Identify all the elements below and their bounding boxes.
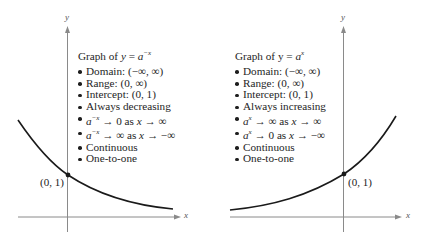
right-point-label: (0, 1) (348, 176, 372, 188)
right-y-axis-label: y (341, 12, 345, 22)
left-graph-title: Graph of y = a−x (78, 48, 175, 62)
left-limit-neg-item: a−x → ∞ as x → −∞ (78, 127, 175, 141)
left-x-axis-label: x (184, 210, 188, 220)
left-properties-box: Graph of y = a−x Domain: (−∞, ∞) Range: … (78, 48, 175, 165)
right-x-axis-arrow-icon (395, 215, 402, 220)
left-point-label: (0, 1) (40, 176, 64, 188)
right-graph-title: Graph of y = ax (235, 48, 326, 62)
left-domain-item: Domain: (−∞, ∞) (78, 66, 175, 78)
left-one-to-one-item: One-to-one (78, 153, 175, 165)
left-properties-list: Domain: (−∞, ∞) Range: (0, ∞) Intercept:… (78, 66, 175, 165)
right-domain-item: Domain: (−∞, ∞) (235, 66, 326, 78)
right-properties-list: Domain: (−∞, ∞) Range: (0, ∞) Intercept:… (235, 66, 326, 165)
right-one-to-one-item: One-to-one (235, 153, 326, 165)
right-x-axis-label: x (406, 210, 410, 220)
right-limit-pos-item: ax → ∞ as x → ∞ (235, 113, 326, 127)
left-y-axis-label: y (65, 12, 69, 22)
left-intercept-point (66, 173, 71, 178)
right-properties-box: Graph of y = ax Domain: (−∞, ∞) Range: (… (235, 48, 326, 165)
right-y-axis-arrow-icon (341, 26, 346, 33)
right-limit-neg-item: ax → 0 as x → −∞ (235, 127, 326, 141)
left-monotone-item: Always decreasing (78, 101, 175, 113)
plots-canvas (0, 0, 423, 238)
right-intercept-point (342, 172, 347, 177)
left-x-axis-arrow-icon (174, 215, 181, 220)
left-y-axis-arrow-icon (65, 26, 70, 33)
left-limit-pos-item: a−x → 0 as x → ∞ (78, 113, 175, 127)
right-monotone-item: Always increasing (235, 101, 326, 113)
